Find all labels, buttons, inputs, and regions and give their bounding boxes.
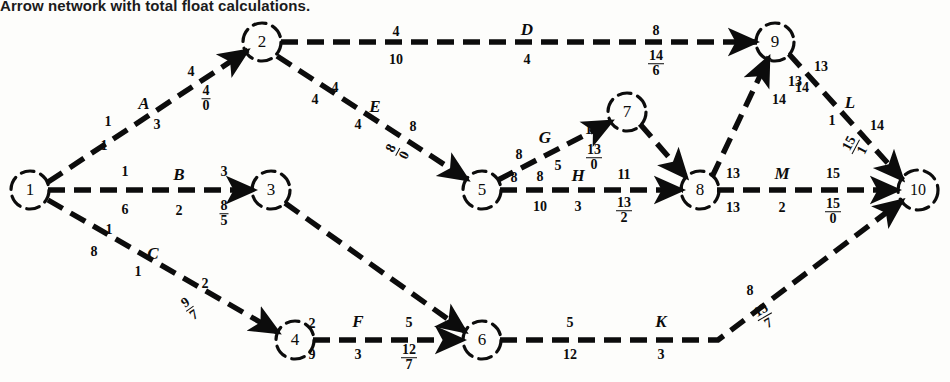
edge-label-M-ls: 13 [726,201,740,215]
edge-label-L-name: L [845,94,855,111]
fraction-numerator: 13 [616,196,632,211]
fraction-denominator: 0 [202,100,211,114]
edge-label-F-ls: 9 [309,348,316,362]
fraction-numerator: 15 [825,197,841,212]
edge-C [48,200,279,333]
node-label-8: 8 [696,180,705,200]
edge-label-K-dur: 3 [658,348,665,362]
node-label-6: 6 [478,330,487,350]
figure-canvas: Arrow network with total float calculati… [0,0,950,382]
edge-label-L-es: 13 [814,60,828,74]
fraction-numerator: 4 [202,84,211,99]
edge-label-K-ls: 12 [563,348,577,362]
edge-label-G-ef: 13 [585,123,599,137]
edge-label-G-frac: 130 [586,143,602,173]
edge-label-A-frac: 40 [202,84,211,114]
edge-label-F-dur: 3 [355,348,362,362]
edge-L [789,54,903,180]
node-label-4: 4 [291,330,300,350]
edge-label-E-dur: 4 [355,118,362,132]
edge-label-D-es: 4 [393,25,400,39]
fraction-numerator: 12 [401,343,417,358]
fraction-numerator: 8 [220,199,229,214]
edge-label-A-es: 1 [105,115,112,129]
edge-label-C-dur: 1 [135,265,142,279]
edge-label-d3-es: 13 [788,75,802,89]
node-label-1: 1 [26,180,35,200]
node-label-9: 9 [771,32,780,52]
edge-label-A-name: A [138,95,149,112]
edge-label-B-es: 1 [122,165,129,179]
edge-label-E-name: E [369,98,380,115]
edge-label-C-es: 1 [106,223,113,237]
edge-label-B-frac: 85 [220,199,229,229]
edge-label-K-name: K [655,313,666,330]
edge-d1 [285,203,466,332]
edge-label-C-ls: 8 [91,245,98,259]
node-label-5: 5 [478,180,487,200]
edge-label-A-dur: 3 [154,118,161,132]
edge-label-L-ef: 14 [870,119,884,133]
edge-label-A-ls: 1 [101,139,108,153]
edge-label-B-name: B [173,166,184,183]
edge-label-H-ef: 11 [617,168,630,182]
edge-label-E-ls: 4 [312,93,319,107]
fraction-denominator: 0 [586,159,602,173]
fraction-numerator: 14 [648,49,664,64]
edge-label-C-name: C [147,245,158,262]
edge-E [277,56,468,180]
edge-label-L-dur: 1 [829,114,836,128]
edge-label-F-name: F [352,313,363,330]
edge-K [500,200,903,340]
edge-label-F-ef: 5 [406,316,413,330]
edge-label-A-ef: 4 [188,65,195,79]
edge-label-B-dur: 2 [176,204,183,218]
edge-label-H-es: 8 [537,170,544,184]
fraction-denominator: 5 [220,215,229,229]
fraction-numerator: 13 [586,143,602,158]
edge-A [48,50,248,182]
edge-label-G-name: G [539,129,551,146]
fraction-denominator: 0 [825,213,841,227]
edge-label-B-ef: 3 [221,165,228,179]
edge-label-D-dur: 4 [524,53,531,67]
edge-label-D-frac: 146 [648,49,664,79]
node-label-3: 3 [267,180,276,200]
fraction-denominator: 2 [616,212,632,226]
edge-label-D-name: D [521,21,533,38]
edge-label-G-dur: 5 [555,159,562,173]
edge-label-M-es: 13 [726,167,740,181]
node-label-2: 2 [258,32,267,52]
edge-label-D-ls: 10 [389,53,403,67]
edge-label-E-es: 4 [332,81,339,95]
edge-label-H-frac: 132 [616,196,632,226]
edge-label-K-ef: 8 [747,284,754,298]
edge-label-M-ef: 15 [826,167,840,181]
edge-label-d3-ls: 14 [772,93,786,107]
fraction-denominator: 6 [648,65,664,79]
edge-label-B-ls: 6 [122,203,129,217]
edge-label-M-frac: 150 [825,197,841,227]
edge-label-F-frac: 127 [401,343,417,373]
edge-label-M-name: M [774,165,789,182]
network-graph [0,0,950,382]
edge-label-H-name: H [571,167,584,184]
edge-d3 [712,57,769,177]
edge-label-H-ls: 10 [533,200,547,214]
node-label-10: 10 [910,181,926,199]
edge-label-F-es: 2 [309,317,316,331]
edge-label-K-es: 5 [567,316,574,330]
edge-label-D-ef: 8 [653,24,660,38]
edge-label-E-ef: 8 [410,120,417,134]
node-label-7: 7 [623,102,632,122]
edge-label-C-ef: 2 [202,277,209,291]
edge-label-G-ls: 8 [511,171,518,185]
edge-label-M-dur: 2 [779,201,786,215]
fraction-denominator: 7 [401,359,417,373]
edge-label-H-dur: 3 [575,200,582,214]
edge-d2 [640,124,687,178]
edge-label-G-es: 8 [516,148,523,162]
